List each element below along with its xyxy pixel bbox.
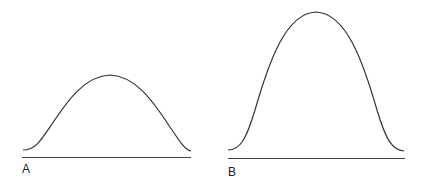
panel-label-a: A [22, 163, 30, 175]
curve-a [23, 75, 191, 151]
panel-a [22, 75, 191, 158]
panel-b [228, 12, 405, 159]
curve-b [228, 12, 404, 151]
diagram-canvas [0, 0, 423, 187]
panel-label-b: B [228, 166, 236, 178]
